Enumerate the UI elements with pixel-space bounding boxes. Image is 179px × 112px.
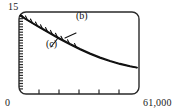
x-axis-max-label: 61,000 [143,98,172,108]
y-axis-min-label: 0 [5,98,10,108]
y-axis-max-label: 15 [8,2,18,12]
series-line-b [21,16,137,68]
leader-line-b [65,33,76,38]
figure-panel: 15 0 61,000 [0,0,179,112]
series-label-c: (c) [46,39,57,49]
series-line-c [21,15,137,68]
series-label-b: (b) [76,11,88,21]
plot-area [18,11,140,95]
